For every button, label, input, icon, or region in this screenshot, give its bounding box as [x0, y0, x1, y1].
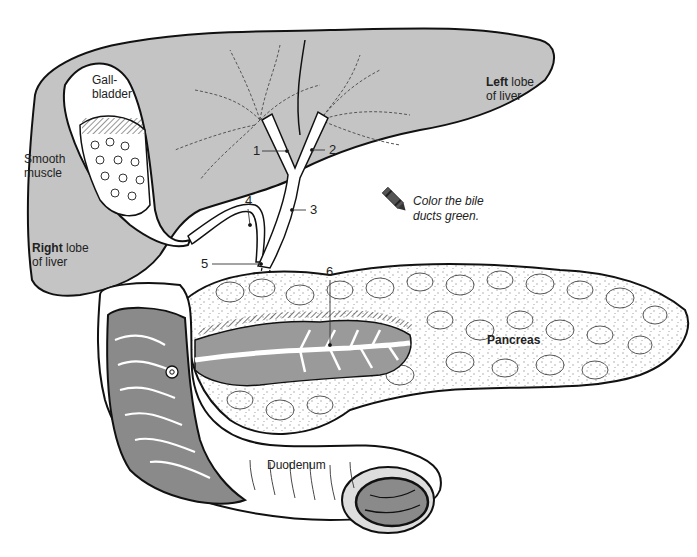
label-duodenum: Duodenum: [267, 458, 326, 472]
label-left-lobe: Left lobe of liver: [486, 75, 534, 103]
label-number-1: 1: [253, 144, 260, 158]
label-left-lobe-line2: of liver: [486, 89, 534, 103]
coloring-instruction: Color the bile ducts green.: [413, 194, 484, 224]
label-number-5: 5: [201, 257, 208, 271]
label-smooth-muscle-line2: muscle: [24, 166, 65, 180]
label-right-lobe-rest: lobe: [63, 241, 89, 255]
label-number-4: 4: [245, 194, 252, 208]
label-gallbladder-line1: Gall-: [92, 73, 132, 87]
label-number-6: 6: [326, 265, 333, 279]
instruction-line1: Color the bile: [413, 194, 484, 209]
label-smooth-muscle: Smooth muscle: [24, 152, 65, 180]
label-left-lobe-rest: lobe: [508, 75, 534, 89]
crayon-icon: [382, 187, 408, 213]
pancreas: [185, 264, 688, 434]
label-number-2: 2: [329, 143, 336, 157]
label-gallbladder-line2: bladder: [92, 87, 132, 101]
instruction-line2: ducts green.: [413, 209, 484, 224]
label-number-3: 3: [310, 203, 317, 217]
label-right-lobe-bold: Right: [32, 241, 63, 255]
label-right-lobe-line2: of liver: [32, 255, 89, 269]
label-smooth-muscle-line1: Smooth: [24, 152, 65, 166]
label-pancreas: Pancreas: [487, 333, 540, 347]
label-left-lobe-bold: Left: [486, 75, 508, 89]
label-gallbladder: Gall- bladder: [92, 73, 132, 101]
label-right-lobe: Right lobe of liver: [32, 241, 89, 269]
